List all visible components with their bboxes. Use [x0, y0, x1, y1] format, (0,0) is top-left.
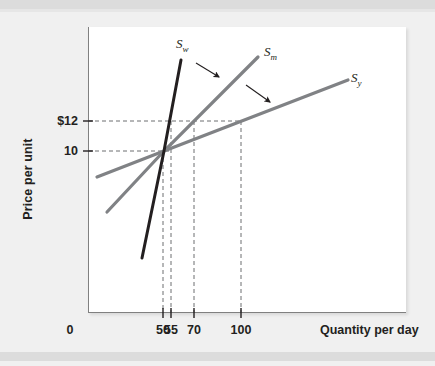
top-band-decoration	[0, 0, 435, 9]
top-band-decoration-secondary	[0, 9, 435, 12]
figure-container: Price per unit Quantity per day 0 $12 10…	[0, 0, 435, 366]
xtick-label-55: 55	[159, 323, 183, 337]
curve-label-sw-sub: w	[183, 44, 189, 54]
x-axis-label: Quantity per day	[320, 323, 419, 337]
origin-label: 0	[62, 323, 78, 337]
ytick-label-12: $12	[28, 114, 78, 128]
xtick-label-100: 100	[226, 323, 256, 337]
curve-label-sy: Sy	[351, 70, 362, 88]
xtick-label-70: 70	[182, 323, 206, 337]
curve-label-sw: Sw	[176, 36, 189, 54]
curve-label-sy-sub: y	[358, 78, 362, 88]
bottom-band-decoration-secondary	[0, 361, 435, 366]
curve-label-sm-sub: m	[271, 52, 278, 62]
bottom-band-decoration	[0, 352, 435, 361]
ytick-label-10: 10	[28, 144, 78, 158]
curve-label-sm: Sm	[264, 44, 277, 62]
